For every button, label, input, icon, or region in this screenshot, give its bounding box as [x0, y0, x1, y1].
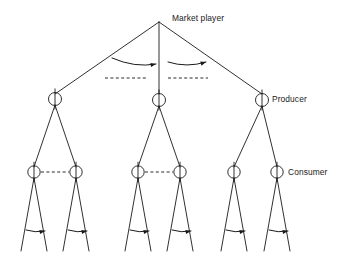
level3-node-3 [132, 162, 144, 182]
flow-arrow-leaf-4 [172, 229, 191, 234]
market-hierarchy-diagram: Market player Producer Consumer [0, 0, 346, 258]
flow-arrow-top-right [168, 60, 207, 66]
branch-edge-4 [159, 106, 180, 167]
flow-arrow-leaf-2 [68, 229, 87, 234]
branch-edge-6 [262, 106, 277, 167]
label-consumer: Consumer [288, 168, 327, 176]
level3-node-6 [271, 162, 283, 182]
level3-node-5 [228, 162, 240, 182]
branch-edge-5 [234, 106, 262, 167]
leaf-edge-1b [34, 178, 47, 251]
root-edge-left [55, 22, 159, 94]
flow-arrow-top-right-curve [168, 62, 206, 65]
level3-node-3-circle [132, 166, 144, 178]
branch-edge-3 [138, 106, 159, 167]
level2-node-middle-circle [153, 94, 166, 107]
leaf-edge-3a [125, 178, 138, 251]
leaf-edge-6a [264, 178, 277, 251]
level2-node-middle [153, 90, 166, 111]
level2-node-left [49, 89, 62, 110]
level3-node-4-circle [174, 166, 186, 178]
branch-edge-group [34, 105, 277, 167]
level3-node-2-circle [70, 166, 82, 178]
leaf-edge-2a [63, 178, 76, 251]
level3-node-1-circle [28, 166, 40, 178]
level3-node-6-circle [271, 166, 283, 178]
leaf-edge-group [21, 178, 290, 251]
leaf-edge-5a [221, 178, 234, 251]
label-producer: Producer [272, 95, 307, 103]
dashed-link-group [41, 78, 208, 172]
branch-edge-1 [34, 105, 55, 167]
flow-arrow-leaf-1 [26, 229, 45, 234]
leaf-edge-4a [167, 178, 180, 251]
leaf-edge-4b [180, 178, 193, 251]
level2-node-left-circle [49, 93, 62, 106]
leaf-edge-3b [138, 178, 151, 251]
leaf-edge-1a [21, 178, 34, 251]
node-group [28, 89, 283, 183]
tree-diagram-canvas [0, 0, 346, 258]
leaf-edge-6b [277, 178, 290, 251]
flow-arrow-top-left-curve [112, 58, 156, 65]
level3-node-5-circle [228, 166, 240, 178]
flow-arrow-leaf-6 [269, 229, 288, 234]
leaf-edge-2b [76, 178, 89, 251]
level3-node-2 [70, 162, 82, 182]
flow-arrow-leaf-5 [226, 229, 245, 234]
flow-arrow-top-left [112, 58, 156, 67]
branch-edge-2 [55, 105, 76, 167]
root-edge-group [55, 22, 262, 94]
level2-node-right-circle [256, 94, 269, 107]
flow-arrow-top-right-head [200, 60, 206, 66]
level3-node-1 [28, 162, 40, 182]
flow-arrow-leaf-3 [130, 229, 149, 234]
level2-node-right [256, 90, 269, 111]
level3-node-4 [174, 162, 186, 182]
label-market-player: Market player [172, 14, 224, 22]
leaf-edge-5b [234, 178, 247, 251]
root-edge-right [159, 22, 262, 94]
